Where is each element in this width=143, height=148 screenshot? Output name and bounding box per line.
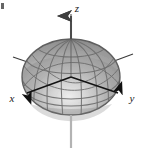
axis-label-z: z — [74, 2, 80, 14]
crop-mark — [1, 3, 4, 9]
axis-label-x: x — [9, 92, 15, 104]
ellipsoid-figure: z x y — [0, 0, 143, 148]
axis-label-y: y — [129, 92, 135, 104]
ellipsoid-canvas: z x y — [0, 0, 143, 148]
